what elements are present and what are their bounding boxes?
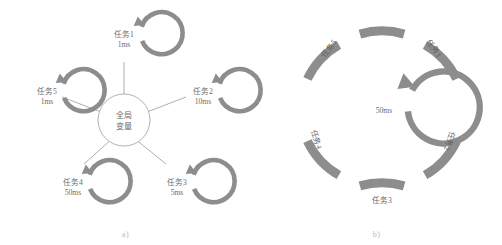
star-topology-svg: 全局 变量 任务1 1ms 任务2 10ms	[0, 0, 251, 245]
inner-arrow-arc	[394, 58, 494, 158]
task-node-4: 任务4 50ms	[63, 152, 139, 210]
task-node-2-period: 10ms	[195, 97, 212, 106]
task-node-1-name: 任务1	[114, 29, 134, 39]
task-node-2-name: 任务2	[193, 86, 213, 96]
spoke-to-task3	[134, 138, 166, 164]
task-node-5-period: 1ms	[41, 97, 54, 106]
panel-a-caption: a)	[0, 230, 251, 239]
task-node-3: 任务3 5ms	[167, 152, 243, 210]
panel-b-caption: b)	[251, 230, 502, 239]
inner-cycle-period-label: 50ms	[376, 106, 393, 115]
outer-arc-segment-top	[360, 31, 404, 34]
circular-arrow-icon-1	[132, 4, 191, 62]
panel-a-star-topology: 全局 变量 任务1 1ms 任务2 10ms	[0, 0, 251, 245]
spoke-to-task2	[147, 97, 186, 112]
task-node-4-name: 任务4	[63, 177, 83, 187]
circular-arrow-icon-4	[80, 152, 139, 210]
task-node-3-period: 5ms	[171, 188, 184, 197]
task-node-3-name: 任务3	[167, 177, 187, 187]
inner-cycle-arrow	[394, 58, 494, 158]
task-node-5-name: 任务5	[37, 86, 57, 96]
outer-arc-segment-3	[360, 183, 404, 186]
panel-b-ring-schedule: 50ms 任务1 任务2 任务3 任务4 任务5 b)	[251, 0, 502, 245]
hub-label-line1: 全局	[116, 110, 132, 120]
outer-arc-label-task3: 任务3	[372, 195, 392, 205]
task-node-4-period: 50ms	[65, 188, 82, 197]
global-variable-hub: 全局 变量	[98, 94, 150, 146]
task-node-1-period: 1ms	[118, 40, 131, 49]
hub-circle	[98, 94, 150, 146]
ring-schedule-svg: 50ms 任务1 任务2 任务3 任务4 任务5	[251, 0, 502, 245]
hub-label-line2: 变量	[116, 121, 132, 131]
circular-arrow-icon-3	[184, 152, 243, 210]
task-node-1: 任务1 1ms	[114, 4, 191, 62]
